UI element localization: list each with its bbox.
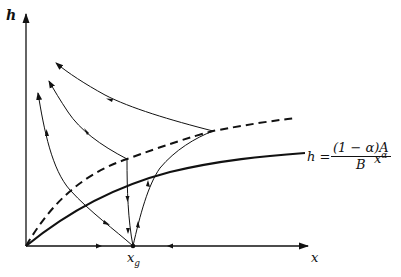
- trajectory-top: [56, 63, 213, 131]
- isocline-equation-denominator: B: [356, 157, 366, 172]
- isocline-equation-lhs: h =: [307, 150, 330, 163]
- y-axis-label: h: [6, 8, 16, 22]
- steady-state-label-subscript: g: [134, 258, 140, 268]
- dashed-isocline-curve: [26, 118, 296, 246]
- trajectory-arrow-icon: [106, 99, 113, 103]
- trajectory-arrow-icon: [146, 180, 150, 187]
- trajectory-arrow-icon: [126, 196, 130, 202]
- trajectory-arrow-icon: [136, 221, 140, 228]
- trajectory-arrow-icon: [126, 228, 130, 234]
- steady-state-point: [131, 244, 136, 249]
- trajectory-left: [38, 93, 133, 246]
- isocline-equation-exponent: α: [381, 150, 387, 160]
- trajectory-arrow-icon: [103, 220, 110, 225]
- phase-diagram: [0, 0, 401, 277]
- x-axis-label: x: [311, 251, 318, 264]
- isocline-equation-power: xα: [374, 151, 387, 165]
- trajectory-right: [133, 131, 213, 246]
- trajectory-middle: [49, 81, 127, 159]
- solid-isocline-curve: [26, 153, 305, 246]
- axis-arrow-right-icon: [96, 244, 102, 249]
- axis-arrow-left-icon: [167, 244, 173, 249]
- steady-state-label: xg: [127, 251, 140, 268]
